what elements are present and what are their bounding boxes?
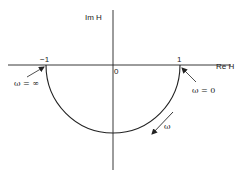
tick-pos-one: 1 [177, 55, 182, 64]
omega-zero-label: ω = 0 [192, 86, 215, 95]
imag-axis-label: Im H [85, 13, 102, 22]
omega-zero-arrow-icon [182, 68, 196, 82]
nyquist-diagram: Im H Re H 0 −1 1 ω = ∞ ω = 0 ω [0, 0, 240, 177]
origin-label: 0 [114, 67, 119, 76]
omega-direction-label: ω [164, 122, 171, 131]
omega-infinity-arrow-icon [27, 67, 44, 77]
tick-neg-one: −1 [40, 55, 50, 64]
real-axis-label: Re H [216, 62, 234, 71]
omega-infinity-label: ω = ∞ [14, 79, 39, 88]
